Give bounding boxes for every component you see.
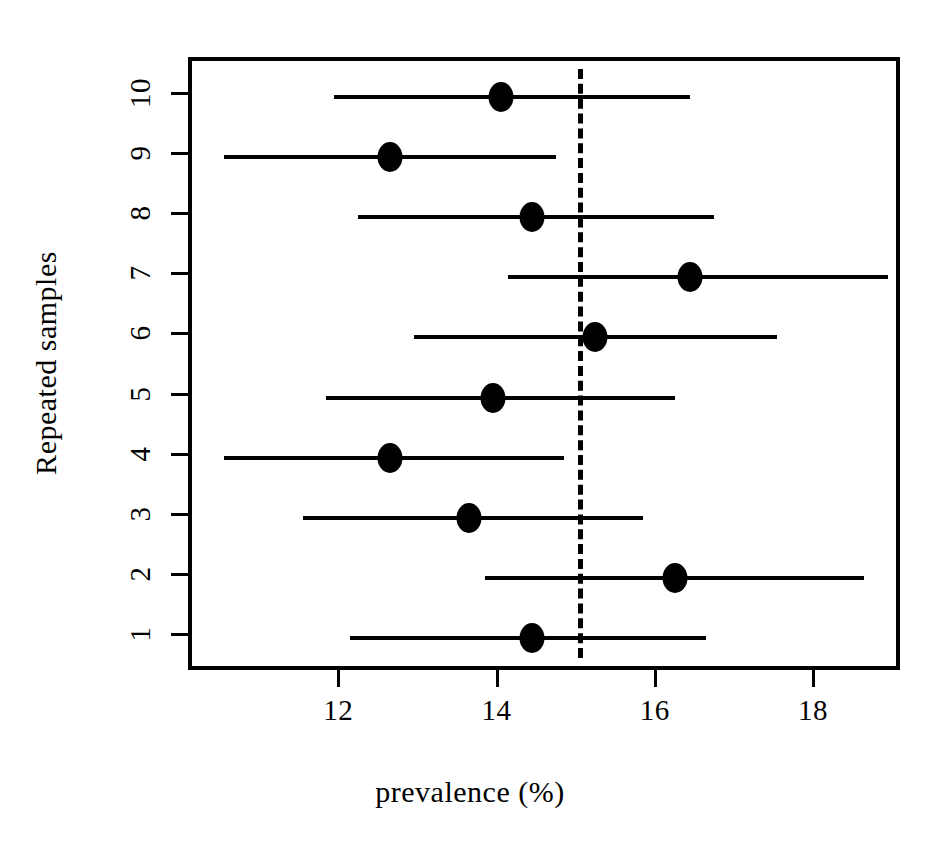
y-axis-tick	[171, 152, 188, 155]
estimate-point-marker	[377, 443, 402, 473]
x-axis-tick-label: 16	[640, 694, 670, 727]
estimate-point-marker	[583, 322, 608, 352]
estimate-point-marker	[488, 82, 513, 112]
y-axis-tick	[171, 393, 188, 396]
y-axis-tick-label: 4	[124, 446, 157, 461]
y-axis-tick-label: 1	[124, 626, 157, 641]
x-axis-tick-label: 12	[323, 694, 353, 727]
x-axis-tick-label: 18	[798, 694, 828, 727]
y-axis-tick-label: 3	[124, 506, 157, 521]
y-axis-tick-label: 10	[124, 78, 157, 108]
y-axis-tick	[171, 212, 188, 215]
forest-plot-figure: prevalence (%) Repeated samples 12141618…	[0, 0, 940, 855]
y-axis-tick-label: 7	[124, 266, 157, 281]
estimate-point-marker	[520, 202, 545, 232]
y-axis-tick-label: 2	[124, 566, 157, 581]
estimate-point-marker	[377, 142, 402, 172]
plot-area	[188, 57, 900, 670]
y-axis-tick-label: 6	[124, 326, 157, 341]
y-axis-tick-label: 9	[124, 146, 157, 161]
y-axis-tick	[171, 332, 188, 335]
x-axis-tick	[654, 670, 657, 687]
y-axis-tick	[171, 272, 188, 275]
y-axis-tick-label: 5	[124, 386, 157, 401]
estimate-point-marker	[678, 262, 703, 292]
y-axis-tick	[171, 573, 188, 576]
estimate-point-marker	[662, 563, 687, 593]
estimate-point-marker	[520, 623, 545, 653]
data-layer	[192, 61, 896, 666]
y-axis-title: Repeated samples	[29, 251, 63, 475]
reference-line-15-percent	[578, 69, 583, 658]
x-axis-tick	[812, 670, 815, 687]
y-axis-tick	[171, 633, 188, 636]
x-axis-tick	[496, 670, 499, 687]
y-axis-tick-label: 8	[124, 206, 157, 221]
x-axis-tick	[337, 670, 340, 687]
x-axis-title: prevalence (%)	[0, 775, 940, 809]
estimate-point-marker	[456, 503, 481, 533]
y-axis-tick	[171, 92, 188, 95]
y-axis-tick	[171, 453, 188, 456]
estimate-point-marker	[480, 383, 505, 413]
x-axis-tick-label: 14	[482, 694, 512, 727]
y-axis-tick	[171, 513, 188, 516]
